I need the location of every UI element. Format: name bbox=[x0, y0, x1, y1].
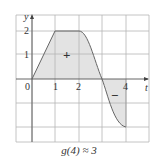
t-axis-arrow-icon bbox=[144, 77, 149, 81]
y-tick-2: 2 bbox=[24, 25, 29, 36]
x-tick-4: 4 bbox=[123, 81, 128, 92]
caption: g(4) ≈ 3 bbox=[0, 144, 158, 156]
x-tick-1: 1 bbox=[53, 81, 58, 92]
y-tick-1: 1 bbox=[24, 49, 29, 60]
y-axis-label: y bbox=[23, 11, 29, 22]
plus-sign: + bbox=[63, 47, 70, 62]
minus-sign: − bbox=[111, 88, 118, 103]
origin-label: 0 bbox=[25, 81, 30, 92]
graph: y t 0 1 2 4 2 1 + − bbox=[0, 0, 158, 145]
t-axis-label: t bbox=[145, 82, 148, 93]
x-tick-2: 2 bbox=[76, 81, 81, 92]
